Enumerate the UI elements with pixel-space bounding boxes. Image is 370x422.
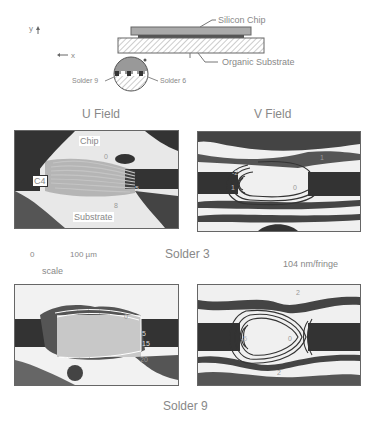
v-field-fringe-image xyxy=(198,132,360,231)
substrate-label: Substrate xyxy=(73,212,114,222)
solder-6-label: Solder 6 xyxy=(160,77,186,84)
solder3-v-field-panel: -2 1 0 1 xyxy=(197,131,361,232)
fringe-order-neg5: -5 xyxy=(241,335,247,342)
fringe-order-1-left: 1 xyxy=(231,184,235,191)
solder-9-label: Solder 9 xyxy=(72,77,98,84)
solder9-u-field-panel: 0 5 15 20 xyxy=(14,284,179,386)
organic-substrate-label: Organic Substrate xyxy=(222,57,295,67)
fringe-order-1-right: 1 xyxy=(320,154,324,161)
fringe-order-2-bottom: 2 xyxy=(277,369,281,376)
chip-label: Chip xyxy=(79,136,100,146)
fringe-order-0: 0 xyxy=(104,153,108,160)
fringe-order-2-top: 2 xyxy=(296,289,300,296)
fringe-order-20: 20 xyxy=(140,356,148,363)
scale-length: 100 µm xyxy=(70,250,97,259)
solder3-caption: Solder 3 xyxy=(165,247,210,261)
schematic: y x Silicon Chip Organic Substrate Solde… xyxy=(0,0,370,100)
fringe-order-neg2: -2 xyxy=(232,169,238,176)
x-axis-label: x xyxy=(71,51,75,60)
y-axis-label: y xyxy=(29,24,33,33)
fringe-order-0: 0 xyxy=(293,184,297,191)
fringe-sensitivity: 104 nm/fringe xyxy=(283,259,338,269)
scale-zero: 0 xyxy=(30,250,34,259)
u-field-heading: U Field xyxy=(82,107,120,121)
fringe-order-15: 15 xyxy=(142,340,150,347)
fringe-order-0: 0 xyxy=(288,335,292,342)
fringe-order-5: 5 xyxy=(142,330,146,337)
c4-label: C4 xyxy=(32,175,48,187)
fringe-order-8: 8 xyxy=(114,202,118,209)
u-field-fringe-image xyxy=(15,285,178,385)
package-schematic-icon xyxy=(0,0,370,100)
solder9-v-field-panel: 2 -5 0 2 xyxy=(197,284,361,386)
v-field-heading: V Field xyxy=(254,107,291,121)
silicon-chip-label: Silicon Chip xyxy=(218,15,266,25)
solder9-caption: Solder 9 xyxy=(163,399,208,413)
scale-label: scale xyxy=(42,266,63,276)
fringe-order-5: 5 xyxy=(135,185,139,192)
solder3-u-field-panel: Chip C4 Substrate 0 5 8 xyxy=(14,130,179,229)
fringe-order-0: 0 xyxy=(124,313,128,320)
